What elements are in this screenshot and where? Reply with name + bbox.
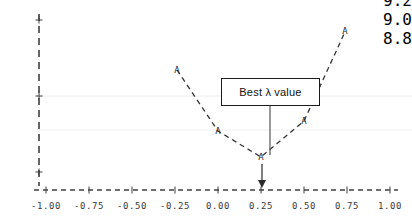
x-tick-label: -0.75 [74, 201, 104, 211]
y-tick-label: 8.8 [0, 29, 412, 48]
x-tick-label: -0.25 [160, 201, 190, 211]
x-tick-label: -0.50 [117, 201, 147, 211]
y-tick-label: 9.0 [0, 10, 412, 29]
y-tick-label: 9.2 [0, 0, 412, 10]
x-tick-label: 1.00 [378, 201, 402, 211]
annotation-connector [258, 106, 270, 188]
annotation-box: Best λ value [221, 78, 320, 106]
x-tick-label: 0.00 [206, 201, 230, 211]
annotation-label: Best λ value [239, 86, 301, 98]
chart-container: A A A A A 9.2 9.0 8.8 -1.00 -0.75 -0.50 … [0, 0, 412, 221]
x-tick-label: -1.00 [31, 201, 61, 211]
x-tick-label: 0.25 [249, 201, 273, 211]
x-tick-label: 0.50 [292, 201, 316, 211]
x-tick-label: 0.75 [335, 201, 359, 211]
